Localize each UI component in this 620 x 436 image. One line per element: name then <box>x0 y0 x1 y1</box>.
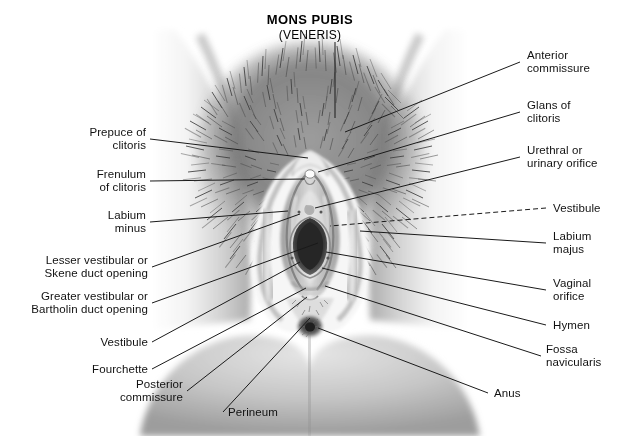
label-urethral-orifice: Urethral or urinary orifice <box>527 144 598 169</box>
label-glans-of-clitoris: Glans of clitoris <box>527 99 571 124</box>
figure-title-sub: (VENERIS) <box>267 28 353 42</box>
anatomy-diagram-page: MONS PUBIS (VENERIS) Prepuce of clitoris… <box>0 0 620 436</box>
label-labium-majus: Labium majus <box>553 230 591 255</box>
label-frenulum-of-clitoris: Frenulum of clitoris <box>0 168 146 193</box>
label-fossa-navicularis: Fossa navicularis <box>546 343 601 368</box>
label-vaginal-orifice: Vaginal orifice <box>553 277 591 302</box>
label-anus: Anus <box>494 387 521 400</box>
label-hymen: Hymen <box>553 319 590 332</box>
label-lesser-vestibular-skene: Lesser vestibular or Skene duct opening <box>0 254 148 279</box>
label-perineum: Perineum <box>228 406 278 419</box>
figure-title: MONS PUBIS (VENERIS) <box>267 12 353 42</box>
label-anterior-commissure: Anterior commissure <box>527 49 590 74</box>
label-vestibule-right: Vestibule <box>553 202 601 215</box>
figure-title-main: MONS PUBIS <box>267 12 353 27</box>
label-greater-vestibular-bartholin: Greater vestibular or Bartholin duct ope… <box>0 290 148 315</box>
label-vestibule-left: Vestibule <box>0 336 148 349</box>
label-fourchette: Fourchette <box>0 363 148 376</box>
label-posterior-commissure: Posterior commissure <box>0 378 183 403</box>
label-prepuce-of-clitoris: Prepuce of clitoris <box>0 126 146 151</box>
label-labium-minus: Labium minus <box>0 209 146 234</box>
